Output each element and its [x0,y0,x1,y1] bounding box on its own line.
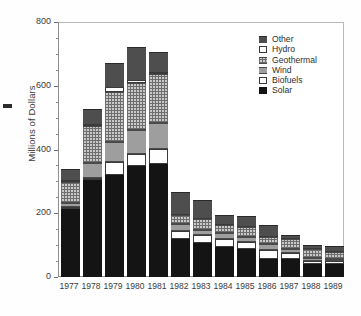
bar-segment-hydro-1980 [127,80,146,83]
bar-segment-biofuels-1980 [127,154,146,166]
y-axis-title: Millions of Dollars [26,59,37,189]
y-axis-tick-label: 400 [36,144,51,154]
legend-swatch-geothermal [259,57,267,64]
bar-segment-wind-1980 [127,130,146,154]
legend-label: Biofuels [272,76,303,85]
bar-segment-wind-1979 [105,142,124,162]
bar-segment-geothermal-1978 [83,126,102,163]
bar-segment-biofuels-1987 [281,253,300,259]
x-axis-label-1978: 1978 [80,281,102,291]
bar-segment-solar-1977 [61,209,80,277]
x-axis-label-1979: 1979 [102,281,124,291]
x-axis-label-1977: 1977 [58,281,80,291]
bar-segment-geothermal-1989 [325,252,344,259]
bar-segment-wind-1989 [325,259,344,262]
chart-legend: OtherHydroGeothermalWindBiofuelsSolar [259,35,341,96]
bar-segment-other-1985 [237,216,256,226]
bar-segment-geothermal-1988 [303,249,322,258]
bar-segment-wind-1984 [215,233,234,239]
x-axis-label-1989: 1989 [322,281,344,291]
bar-segment-geothermal-1986 [259,237,278,243]
bar-segment-other-1984 [215,215,234,224]
bar-segment-other-1977 [61,169,80,180]
bar-segment-wind-1977 [61,203,80,206]
legend-item-geothermal: Geothermal [259,55,341,65]
bar-segment-geothermal-1981 [149,74,168,123]
bar-segment-wind-1985 [237,237,256,242]
chart-figure: Millions of Dollars 0200400600800 197719… [0,0,361,316]
bar-segment-biofuels-1983 [193,235,212,243]
bar-segment-other-1981 [149,52,168,72]
legend-item-other: Other [259,35,341,45]
legend-label: Solar [272,86,292,95]
bar-segment-geothermal-1983 [193,219,212,230]
bar-segment-biofuels-1988 [303,261,322,264]
legend-item-hydro: Hydro [259,45,341,55]
bar-segment-biofuels-1986 [259,250,278,259]
bar-segment-wind-1978 [83,163,102,178]
bar-segment-geothermal-1985 [237,227,256,237]
y-axis-tick-mark [54,277,58,278]
y-axis-tick-label: 0 [46,271,51,281]
x-axis-label-1982: 1982 [168,281,190,291]
bar-segment-solar-1983 [193,243,212,277]
legend-swatch-other [259,36,267,43]
bar-segment-biofuels-1981 [149,149,168,164]
bar-segment-solar-1989 [325,264,344,277]
x-axis-label-1984: 1984 [212,281,234,291]
bar-segment-solar-1980 [127,166,146,277]
legend-item-wind: Wind [259,66,341,76]
bar-segment-other-1986 [259,225,278,236]
bar-segment-other-1989 [325,246,344,250]
legend-label: Geothermal [272,56,317,65]
bar-segment-geothermal-1982 [171,215,190,224]
bar-segment-solar-1979 [105,175,124,277]
bar-segment-wind-1988 [303,258,322,261]
x-axis-label-1988: 1988 [300,281,322,291]
bar-segment-other-1987 [281,235,300,238]
bar-segment-solar-1978 [83,180,102,277]
bar-segment-solar-1987 [281,259,300,277]
bar-segment-solar-1986 [259,259,278,277]
x-axis-label-1983: 1983 [190,281,212,291]
bar-segment-other-1978 [83,109,102,125]
legend-label: Wind [272,66,292,75]
bar-segment-geothermal-1980 [127,83,146,130]
bar-segment-other-1983 [193,200,212,218]
bar-segment-geothermal-1977 [61,182,80,204]
bar-segment-other-1982 [171,192,190,214]
legend-item-biofuels: Biofuels [259,76,341,86]
bar-segment-solar-1988 [303,264,322,277]
bar-segment-geothermal-1987 [281,239,300,249]
bar-segment-biofuels-1977 [61,207,80,210]
legend-swatch-hydro [259,46,267,53]
bar-segment-other-1980 [127,47,146,80]
bar-segment-geothermal-1979 [105,92,124,142]
x-axis-label-1980: 1980 [124,281,146,291]
legend-swatch-biofuels [259,77,267,84]
bar-segment-biofuels-1984 [215,239,234,247]
bar-segment-biofuels-1989 [325,261,344,264]
y-axis-tick-label: 600 [36,80,51,90]
bar-segment-other-1988 [303,245,322,248]
bar-segment-solar-1981 [149,164,168,277]
y-axis-tick-label: 800 [36,16,51,26]
x-axis-label-1985: 1985 [234,281,256,291]
bar-segment-biofuels-1979 [105,162,124,175]
x-axis-tick-labels: 1977197819791980198119821983198419851986… [58,281,344,297]
bar-segment-hydro-1979 [105,87,124,91]
x-axis-label-1981: 1981 [146,281,168,291]
bar-segment-wind-1983 [193,230,212,235]
bar-segment-solar-1985 [237,249,256,277]
bar-segment-solar-1982 [171,239,190,277]
legend-item-solar: Solar [259,86,341,96]
bar-segment-geothermal-1984 [215,225,234,233]
bar-segment-biofuels-1985 [237,242,256,249]
bar-segment-wind-1986 [259,244,278,250]
legend-swatch-wind [259,67,267,74]
x-axis-label-1987: 1987 [278,281,300,291]
legend-label: Other [272,35,294,44]
bar-segment-wind-1987 [281,249,300,253]
bar-segment-other-1979 [105,63,124,87]
legend-swatch-solar [259,87,267,94]
